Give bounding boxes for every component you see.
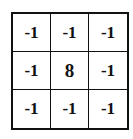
kernel-cell-r2-c1: -1 [51, 90, 89, 128]
kernel-cell-r0-c0: -1 [13, 14, 51, 52]
kernel-cell-r2-c2: -1 [89, 90, 127, 128]
kernel-cell-r2-c0: -1 [13, 90, 51, 128]
convolution-kernel-grid: -1 -1 -1 -1 8 -1 -1 -1 -1 [11, 12, 129, 130]
kernel-cell-center: 8 [51, 52, 89, 90]
kernel-cell-r0-c1: -1 [51, 14, 89, 52]
kernel-cell-r1-c0: -1 [13, 52, 51, 90]
kernel-cell-r0-c2: -1 [89, 14, 127, 52]
kernel-cell-r1-c2: -1 [89, 52, 127, 90]
